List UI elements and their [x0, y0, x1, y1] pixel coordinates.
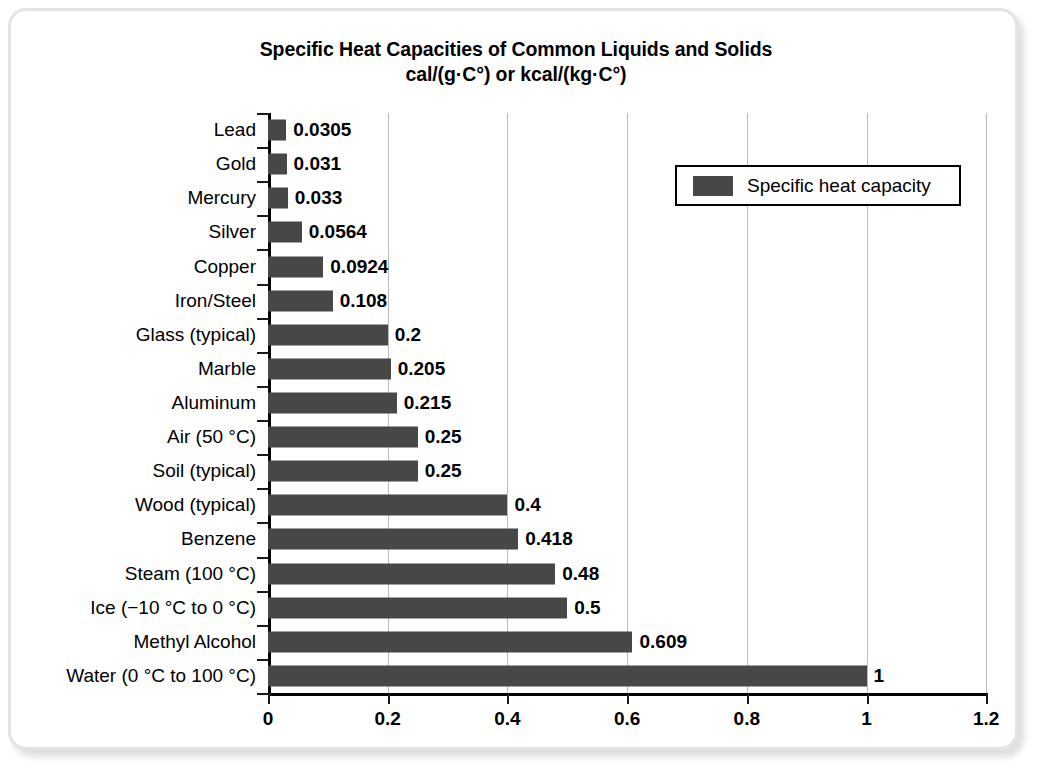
bar-value-label: 0.0924 — [330, 256, 388, 278]
y-axis-tick — [257, 522, 269, 524]
y-axis-tick — [257, 454, 269, 456]
bar-value-label: 0.108 — [340, 290, 388, 312]
bar[interactable] — [268, 290, 333, 311]
category-label: Steam (100 °C) — [26, 563, 271, 585]
bar[interactable] — [268, 222, 302, 243]
category-label: Lead — [26, 119, 271, 141]
category-label: Benzene — [26, 528, 271, 550]
category-label: Iron/Steel — [26, 290, 271, 312]
y-axis-tick — [257, 659, 269, 661]
x-axis-tick-label: 1 — [861, 708, 872, 730]
bar[interactable] — [268, 631, 632, 652]
category-label: Copper — [26, 256, 271, 278]
bar-value-label: 0.215 — [404, 392, 452, 414]
y-axis-tick — [257, 488, 269, 490]
bar-value-label: 0.5 — [574, 597, 600, 619]
x-axis-tick-label: 0.6 — [614, 708, 640, 730]
bar-value-label: 0.48 — [562, 563, 599, 585]
bar[interactable] — [268, 120, 286, 141]
bar-value-label: 0.4 — [514, 494, 540, 516]
bar[interactable] — [268, 495, 507, 516]
y-axis-tick — [257, 147, 269, 149]
category-label: Mercury — [26, 187, 271, 209]
y-axis-tick — [257, 181, 269, 183]
bar-value-label: 0.0305 — [293, 119, 351, 141]
category-label: Marble — [26, 358, 271, 380]
x-axis-tick-label: 0.2 — [374, 708, 400, 730]
x-axis-tick-label: 0.4 — [494, 708, 520, 730]
bar[interactable] — [268, 529, 518, 550]
category-axis-labels: LeadGoldMercurySilverCopperIron/SteelGla… — [11, 11, 271, 753]
y-axis-tick — [257, 625, 269, 627]
x-axis-tick-label: 0.8 — [734, 708, 760, 730]
category-label: Glass (typical) — [26, 324, 271, 346]
bar-value-label: 1 — [874, 665, 885, 687]
bar[interactable] — [268, 597, 567, 618]
bar-value-label: 0.031 — [294, 153, 342, 175]
x-axis-tick — [627, 693, 629, 704]
chart-figure-frame: Specific Heat Capacities of Common Liqui… — [8, 8, 1018, 750]
bar[interactable] — [268, 256, 323, 277]
y-axis-tick — [257, 557, 269, 559]
bar[interactable] — [268, 358, 391, 379]
chart-legend[interactable]: Specific heat capacity — [675, 165, 961, 206]
bar[interactable] — [268, 665, 867, 686]
category-label: Aluminum — [26, 392, 271, 414]
y-axis-tick — [257, 693, 269, 695]
bar-value-label: 0.205 — [398, 358, 446, 380]
gridline-x — [986, 113, 987, 693]
y-axis-tick — [257, 249, 269, 251]
x-axis-tick — [986, 693, 988, 704]
x-axis-tick — [747, 693, 749, 704]
y-axis-tick — [257, 318, 269, 320]
category-label: Water (0 °C to 100 °C) — [26, 665, 271, 687]
category-label: Gold — [26, 153, 271, 175]
chart-title-main: Specific Heat Capacities of Common Liqui… — [260, 38, 773, 60]
y-axis-tick — [257, 352, 269, 354]
x-axis-tick-label: 0 — [263, 708, 274, 730]
x-axis-tick — [388, 693, 390, 704]
category-label: Air (50 °C) — [26, 426, 271, 448]
x-axis-tick-label: 1.2 — [973, 708, 999, 730]
category-label: Methyl Alcohol — [26, 631, 271, 653]
y-axis-tick — [257, 591, 269, 593]
legend-swatch-specific-heat-capacity — [693, 176, 733, 196]
bar-value-label: 0.418 — [525, 528, 573, 550]
y-axis-tick — [257, 420, 269, 422]
legend-label-specific-heat-capacity: Specific heat capacity — [747, 175, 931, 197]
bar-value-label: 0.033 — [295, 187, 343, 209]
y-axis-tick — [257, 113, 269, 115]
category-label: Silver — [26, 221, 271, 243]
bar[interactable] — [268, 154, 287, 175]
category-label: Ice (−10 °C to 0 °C) — [26, 597, 271, 619]
bar-value-label: 0.2 — [395, 324, 421, 346]
bar-value-label: 0.609 — [639, 631, 687, 653]
y-axis-tick — [257, 386, 269, 388]
bar[interactable] — [268, 461, 418, 482]
y-axis-tick — [257, 215, 269, 217]
gridline-x — [627, 113, 628, 693]
category-label: Wood (typical) — [26, 494, 271, 516]
y-axis-tick — [257, 284, 269, 286]
bar[interactable] — [268, 188, 288, 209]
bar[interactable] — [268, 427, 418, 448]
category-label: Soil (typical) — [26, 460, 271, 482]
x-axis-tick — [867, 693, 869, 704]
x-axis-tick — [507, 693, 509, 704]
bar[interactable] — [268, 563, 555, 584]
bar[interactable] — [268, 324, 388, 345]
bar-value-label: 0.25 — [425, 460, 462, 482]
bar-value-label: 0.0564 — [309, 221, 367, 243]
bar-value-label: 0.25 — [425, 426, 462, 448]
bar[interactable] — [268, 393, 397, 414]
